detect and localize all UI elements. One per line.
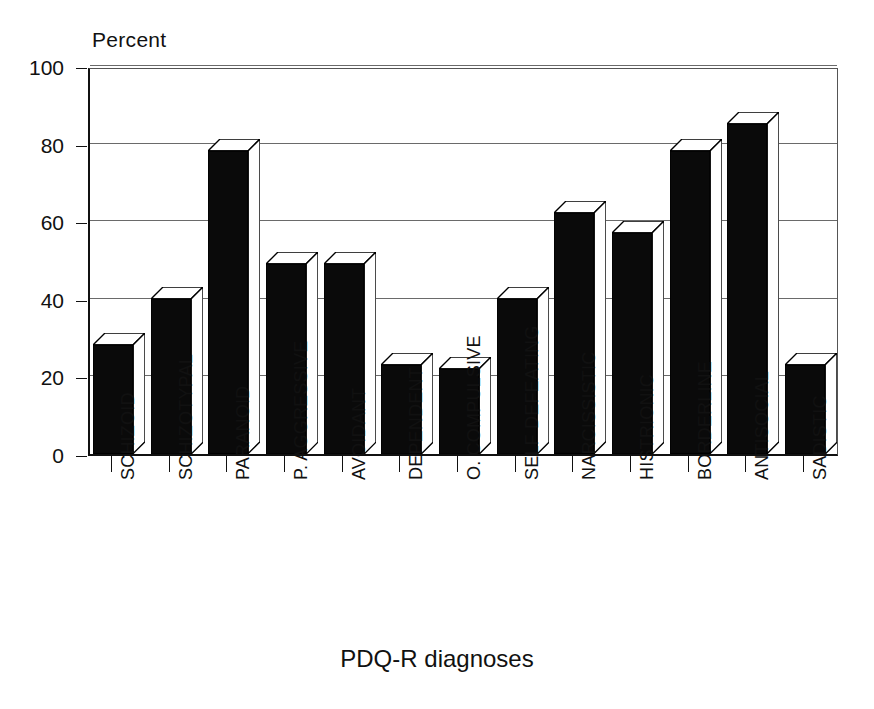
x-tick-label: DEPENDENT <box>406 367 427 480</box>
x-tick-label: SADISTIC <box>810 395 831 480</box>
gridline <box>90 65 837 66</box>
x-tick-mark <box>630 456 631 472</box>
y-tick-label: 0 <box>2 444 64 468</box>
x-tick-mark <box>226 456 227 472</box>
chart-root: Percent 020406080100 SCHIZOIDSCHIZOTYPAL… <box>0 0 874 709</box>
x-tick-mark <box>457 456 458 472</box>
x-tick-mark <box>688 456 689 472</box>
x-axis-title: PDQ-R diagnoses <box>0 645 874 673</box>
x-tick-mark <box>284 456 285 472</box>
y-tick-mark <box>76 223 87 224</box>
plot-area <box>88 68 838 456</box>
x-tick-mark <box>572 456 573 472</box>
x-tick-label: HISTRIONIC <box>637 374 658 480</box>
x-tick-label: BORDERLINE <box>695 361 716 480</box>
x-tick-mark <box>111 456 112 472</box>
x-tick-mark <box>803 456 804 472</box>
x-tick-label: SELF DEFEATING <box>522 326 543 481</box>
x-tick-label: PARANOID <box>233 386 254 480</box>
y-tick-label: 60 <box>2 211 64 235</box>
x-tick-label: SCHIZOTYPAL <box>176 354 197 480</box>
x-tick-label: AVOIDANT <box>349 388 370 480</box>
y-axis-title: Percent <box>92 28 166 52</box>
x-tick-mark <box>515 456 516 472</box>
y-tick-mark <box>76 301 87 302</box>
y-tick-label: 80 <box>2 134 64 158</box>
y-tick-mark <box>76 146 87 147</box>
x-tick-label: O. COMPULSIVE <box>464 335 485 480</box>
x-tick-mark <box>342 456 343 472</box>
y-tick-mark <box>76 378 87 379</box>
y-tick-label: 40 <box>2 289 64 313</box>
y-tick-mark <box>76 68 87 69</box>
y-tick-label: 100 <box>2 56 64 80</box>
y-tick-mark <box>76 456 87 457</box>
x-tick-mark <box>745 456 746 472</box>
x-tick-mark <box>399 456 400 472</box>
x-tick-label: ANTISOCIAL <box>752 371 773 480</box>
y-tick-label: 20 <box>2 366 64 390</box>
x-tick-label: NARCISSISTIC <box>579 352 600 480</box>
x-tick-label: P. AGGRESSIVE <box>291 341 312 480</box>
x-tick-mark <box>169 456 170 472</box>
x-tick-label: SCHIZOID <box>118 392 139 480</box>
